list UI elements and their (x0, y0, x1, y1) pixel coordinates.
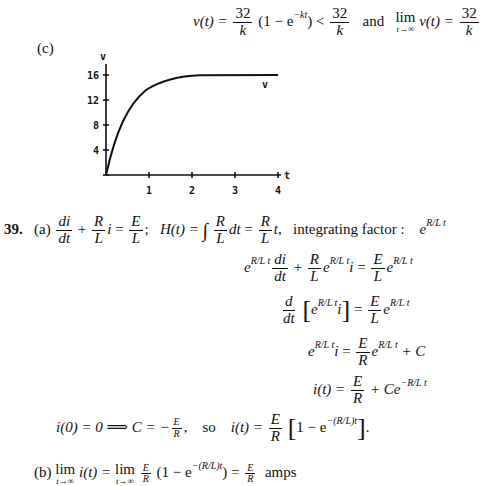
part-a-label: (a) (34, 221, 51, 237)
y-axis-label: v (100, 51, 106, 62)
step-1: eR/L tdidt + RLeR/L ti = ELeR/L t (244, 252, 413, 285)
integrating-factor-label: integrating factor : (293, 221, 405, 237)
svg-text:12: 12 (87, 95, 99, 106)
step-4: i(t) = ER + Ce−R/L t (313, 374, 427, 407)
svg-text:4: 4 (275, 185, 281, 196)
svg-text:16: 16 (87, 70, 99, 81)
velocity-curve (106, 75, 278, 175)
svg-text:4: 4 (93, 145, 99, 156)
svg-text:3: 3 (232, 185, 238, 196)
step-2: ddt [eR/L ti] = ELeR/L t (279, 294, 410, 327)
part-b-label: (b) (34, 464, 52, 480)
svg-text:8: 8 (93, 120, 99, 131)
x-axis-label: t (284, 170, 290, 181)
problem-number: 39. (4, 221, 23, 237)
svg-text:1: 1 (146, 185, 152, 196)
integrating-factor-expr: eR/L t (420, 221, 446, 237)
series-label: v (262, 79, 268, 90)
part-b-line: (b) limt→∞ i(t) = limt→∞ ER (1 − e−(R/L)… (34, 460, 297, 486)
velocity-chart: v t v 16 12 8 4 1 2 3 4 (0, 0, 477, 210)
initial-condition-line: i(0) = 0 ⟹ C = −ER, so i(t) = ER [1 − e−… (56, 412, 369, 445)
problem-39-line1: 39. (a) didt + RLi = EL; H(t) = ∫ RLdt =… (4, 214, 446, 247)
svg-text:2: 2 (189, 185, 195, 196)
unit-amps: amps (265, 464, 297, 480)
step-3: eR/L ti = EReR/L t + C (308, 336, 425, 369)
